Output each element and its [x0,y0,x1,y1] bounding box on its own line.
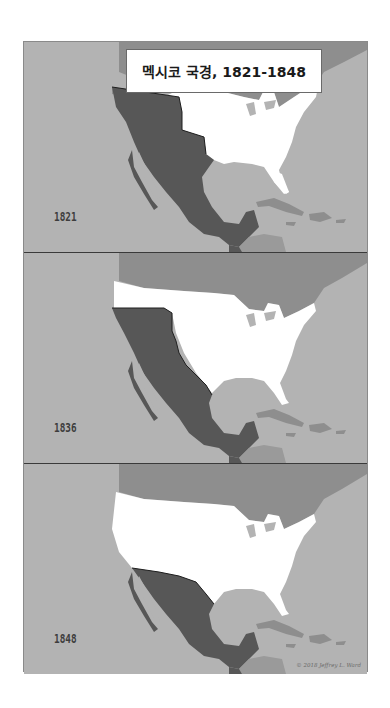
year-label-1836: 1836 [54,420,77,435]
map-title-box: 멕시코 국경, 1821-1848 [126,49,322,93]
map-frame: 1821 멕시코 국경, 1821-1848 1836 [23,41,368,672]
map-panel-1848: 1848 © 2018 Jeffrey L. Ward [24,463,367,674]
map-title: 멕시코 국경, 1821-1848 [142,61,306,81]
copyright-credit: © 2018 Jeffrey L. Ward [296,662,361,668]
map-panel-1821: 1821 멕시코 국경, 1821-1848 [24,42,367,252]
year-label-1848: 1848 [54,631,77,646]
year-label-1821: 1821 [54,209,77,224]
map-panel-1836: 1836 [24,252,367,463]
